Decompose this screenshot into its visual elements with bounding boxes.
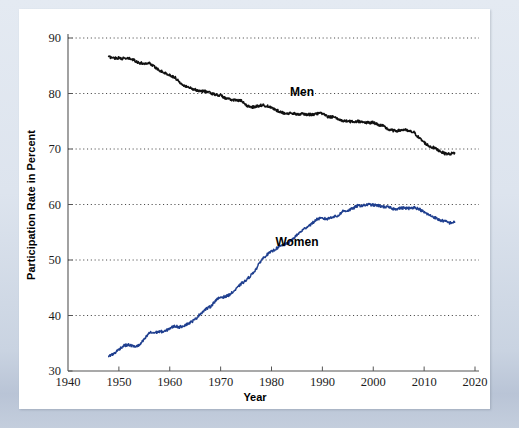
x-tick-label: 1950: [106, 375, 131, 389]
labor-force-participation-chart: 194019501960197019801990200020102020 304…: [19, 9, 490, 409]
y-tick-label: 80: [49, 87, 62, 101]
x-tick-label: 1980: [259, 375, 284, 389]
y-axis-title: Participation Rate in Percent: [25, 130, 37, 280]
x-tick-label: 2020: [463, 375, 488, 389]
x-tick-label: 1960: [157, 375, 182, 389]
figure-page: 194019501960197019801990200020102020 304…: [0, 0, 519, 428]
y-tick-label: 70: [49, 142, 62, 156]
series-label-women: Women: [275, 235, 318, 249]
y-tick-label: 50: [49, 253, 62, 267]
x-axis-title: Year: [243, 391, 267, 403]
y-tick-label: 40: [49, 309, 62, 323]
y-tick-label: 60: [49, 198, 62, 212]
series-label-men: Men: [290, 85, 314, 99]
x-tick-label: 1990: [310, 375, 335, 389]
x-tick-label: 1970: [208, 375, 233, 389]
x-tick-label: 2000: [361, 375, 386, 389]
y-tick-label: 90: [49, 31, 62, 45]
x-tick-label: 2010: [412, 375, 437, 389]
x-axis-tick-labels: 194019501960197019801990200020102020: [56, 375, 488, 389]
chart-card: 194019501960197019801990200020102020 304…: [19, 9, 490, 409]
y-tick-label: 30: [49, 364, 62, 378]
